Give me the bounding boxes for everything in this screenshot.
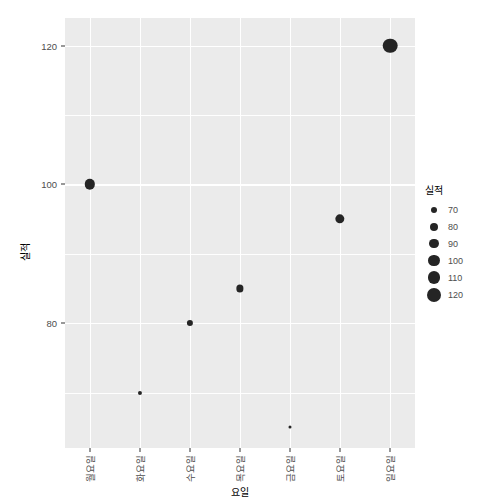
x-axis-tick-mark [240,448,241,452]
x-axis-tick-label: 화요일 [133,455,147,482]
y-axis-tick-label: 120 [41,40,57,51]
legend-dot [429,239,439,249]
legend-key [424,288,444,302]
scatter-chart: 실적 80100120 월요일화요일수요일목요일금요일토요일일요일 요일 실적 … [0,0,489,504]
x-axis-tick-mark [90,448,91,452]
gridline-vertical-major [240,18,241,448]
x-axis-tick-label: 월요일 [83,455,97,482]
legend-entry: 120 [424,286,488,303]
data-point [138,390,142,394]
legend-key [424,239,444,249]
data-point [85,179,95,189]
x-axis-tick-mark [290,448,291,452]
legend-dot [428,271,441,284]
gridline-vertical-major [340,18,341,448]
gridline-vertical-major [390,18,391,448]
x-axis-tick-mark [190,448,191,452]
legend-key [424,271,444,284]
y-axis-tick-mark [61,45,65,46]
y-axis-tick-mark [61,323,65,324]
gridline-vertical-major [90,18,91,448]
data-point [187,320,193,326]
legend: 실적 708090100110120 [424,182,488,303]
x-axis-tick-label: 일요일 [383,455,397,482]
legend-entry: 80 [424,218,488,235]
gridline-vertical-major [140,18,141,448]
x-axis-tick-mark [140,448,141,452]
legend-dot [427,288,441,302]
x-axis-tick-mark [390,448,391,452]
x-axis-tick-mark [340,448,341,452]
y-axis-title: 실적 [17,243,32,261]
legend-entry: 110 [424,269,488,286]
gridline-vertical-major [290,18,291,448]
x-axis-title: 요일 [231,484,249,499]
legend-label: 80 [448,222,458,232]
legend-entries: 708090100110120 [424,201,488,303]
x-axis-tick-label: 금요일 [283,455,297,482]
y-axis-tick-label: 80 [46,318,57,329]
legend-dot [428,255,439,266]
legend-entry: 100 [424,252,488,269]
legend-entry: 90 [424,235,488,252]
legend-label: 120 [448,290,463,300]
x-axis-tick-label: 목요일 [233,455,247,482]
legend-label: 90 [448,239,458,249]
legend-title: 실적 [424,182,488,197]
legend-dot [430,223,438,231]
x-axis-tick-label: 토요일 [333,455,347,482]
plot-panel [65,18,415,448]
legend-key [424,207,444,213]
legend-label: 100 [448,256,463,266]
legend-key [424,223,444,231]
legend-label: 110 [448,273,462,283]
y-axis-tick-label: 100 [41,179,57,190]
x-axis-tick-label: 수요일 [183,455,197,482]
data-point [383,38,398,53]
legend-label: 70 [448,205,458,215]
data-point [236,285,243,292]
legend-entry: 70 [424,201,488,218]
data-point [335,214,344,223]
legend-key [424,255,444,266]
legend-dot [431,207,437,213]
y-axis-tick-mark [61,184,65,185]
gridline-vertical-major [190,18,191,448]
